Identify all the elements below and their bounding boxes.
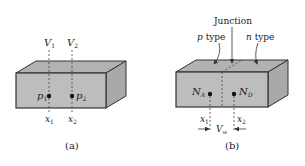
caption-a: (a)	[65, 140, 79, 151]
position-label-x2: x2	[68, 114, 77, 125]
position-label-x2-b: x2	[237, 114, 246, 125]
point-p1-dot	[47, 94, 51, 98]
p-type-label: p type	[197, 32, 225, 42]
pn-junction-bar	[176, 60, 288, 107]
figure-a: V1 V2 p1 p2 x1 x2 (a)	[16, 37, 126, 151]
donor-dot	[232, 92, 236, 96]
position-label-x1-b: x1	[200, 114, 209, 125]
n-type-label: n type	[246, 32, 274, 42]
acceptor-dot	[208, 92, 212, 96]
figure-b: Junction p type n type NA ND x1 x2 Vw (b…	[176, 16, 288, 151]
voltage-label-v2: V2	[67, 37, 78, 49]
semiconductor-bar-a	[16, 61, 126, 108]
caption-b: (b)	[225, 140, 239, 151]
point-p2-dot	[70, 94, 74, 98]
position-label-x1: x1	[45, 114, 54, 125]
width-label-vw: Vw	[216, 124, 228, 135]
diagram-canvas: V1 V2 p1 p2 x1 x2 (a) Junction p type n …	[0, 0, 305, 166]
voltage-label-v1: V1	[44, 37, 55, 49]
junction-label: Junction	[213, 16, 252, 26]
